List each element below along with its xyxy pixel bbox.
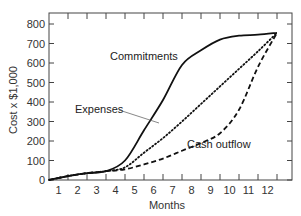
y-tick-label: 800 bbox=[27, 18, 45, 30]
y-tick-label: 400 bbox=[27, 96, 45, 108]
x-tick-label: 12 bbox=[261, 184, 273, 196]
y-tick-label: 300 bbox=[27, 116, 45, 128]
x-tick-label: 11 bbox=[243, 184, 254, 196]
y-tick-label: 200 bbox=[27, 135, 45, 147]
x-tick-label: 9 bbox=[207, 184, 213, 196]
commitments-label: Commitments bbox=[110, 50, 178, 62]
y-tick-label: 500 bbox=[27, 77, 45, 89]
x-tick-label: 2 bbox=[74, 184, 80, 196]
y-tick-label: 600 bbox=[27, 57, 45, 69]
x-tick-label: 1 bbox=[55, 184, 61, 196]
x-tick-label: 10 bbox=[223, 184, 235, 196]
x-axis-title: Months bbox=[149, 199, 186, 211]
x-tick-label: 5 bbox=[131, 184, 137, 196]
cash-outflow-label: Cash outflow bbox=[187, 138, 251, 150]
y-axis: 0100200300400500600700800 bbox=[27, 18, 292, 186]
expenses-label: Expenses bbox=[75, 103, 124, 115]
x-tick-label: 7 bbox=[169, 184, 175, 196]
y-tick-label: 700 bbox=[27, 38, 45, 50]
x-tick-label: 6 bbox=[150, 184, 156, 196]
x-tick-label: 8 bbox=[188, 184, 194, 196]
y-tick-label: 100 bbox=[27, 155, 45, 167]
x-tick-label: 3 bbox=[93, 184, 99, 196]
y-axis-title: Cost x $1,000 bbox=[7, 66, 19, 134]
x-tick-label: 4 bbox=[112, 184, 118, 196]
y-tick-label: 0 bbox=[39, 174, 45, 186]
cost-chart: 0100200300400500600700800 12345678910111… bbox=[0, 0, 301, 216]
